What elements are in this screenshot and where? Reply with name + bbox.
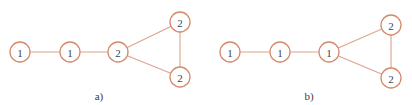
graph-node: 2 <box>381 15 401 35</box>
graph-node: 1 <box>319 42 339 62</box>
node-label: 1 <box>17 47 23 59</box>
node-label: 2 <box>115 47 121 59</box>
node-label: 2 <box>388 73 394 85</box>
graph-node: 1 <box>10 42 30 62</box>
node-label: 1 <box>326 47 332 59</box>
graph-node: 1 <box>220 42 240 62</box>
panel-label: b) <box>304 90 314 103</box>
graph-node: 2 <box>108 42 128 62</box>
graph-node: 1 <box>270 42 290 62</box>
graph-node: 1 <box>60 42 80 62</box>
node-label: 2 <box>388 20 394 32</box>
graph-node: 2 <box>170 67 190 87</box>
graph-node: 2 <box>170 12 190 32</box>
node-label: 2 <box>177 72 183 84</box>
node-label: 1 <box>67 47 73 59</box>
graph-diagram: 11222a) 11122b) <box>0 0 412 105</box>
node-label: 1 <box>277 47 283 59</box>
panel-b: 11122b) <box>220 15 401 103</box>
graph-node: 2 <box>381 68 401 88</box>
panel-label: a) <box>95 90 104 103</box>
node-label: 2 <box>177 17 183 29</box>
node-label: 1 <box>227 47 233 59</box>
panel-a: 11222a) <box>10 12 190 103</box>
